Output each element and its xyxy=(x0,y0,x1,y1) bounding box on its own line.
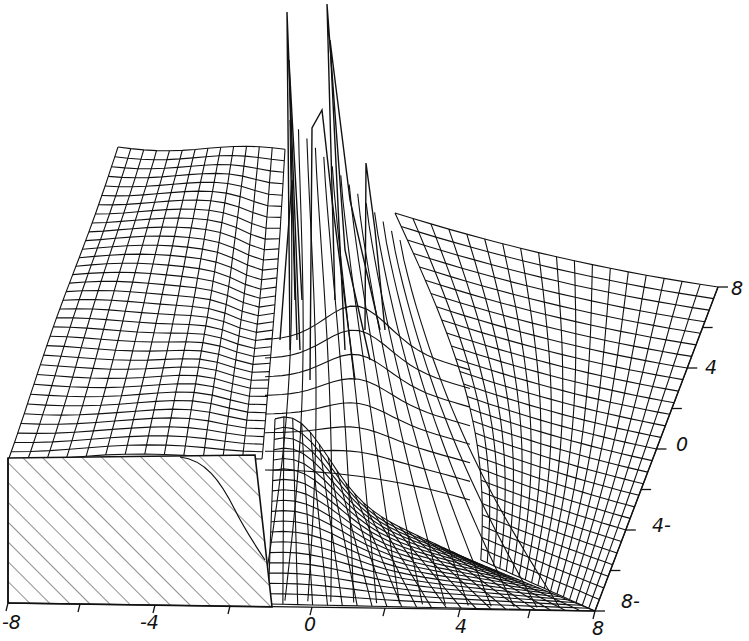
y-tick-label: 8- xyxy=(621,592,640,611)
x-tick-label: 8 xyxy=(592,619,604,638)
x-tick-label: -8 xyxy=(2,613,21,632)
left-plateau-mesh xyxy=(8,146,285,461)
x-tick-label: 0 xyxy=(304,615,316,634)
y-tick-label: 4 xyxy=(705,358,717,377)
y-axis-ticks xyxy=(595,287,728,611)
surface-plot xyxy=(0,0,749,641)
hatched-cutaway-block xyxy=(8,455,272,607)
y-tick-label: 4- xyxy=(652,516,671,535)
y-tick-label: 0 xyxy=(676,435,688,454)
x-tick-label: -4 xyxy=(140,613,159,632)
x-tick-label: 4 xyxy=(455,617,467,636)
singular-spikes xyxy=(280,4,385,380)
y-tick-label: 8 xyxy=(731,279,743,298)
